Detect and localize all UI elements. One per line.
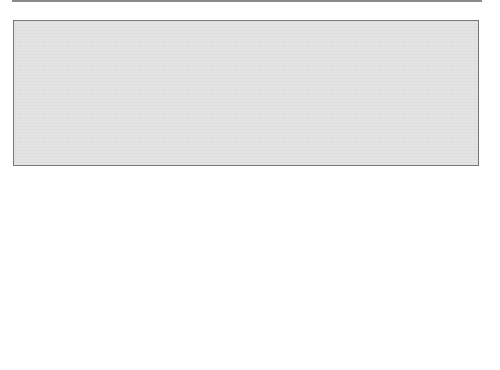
top-rule [12,0,482,2]
kepler-figure-top [0,0,500,370]
figure-frame [14,21,479,166]
